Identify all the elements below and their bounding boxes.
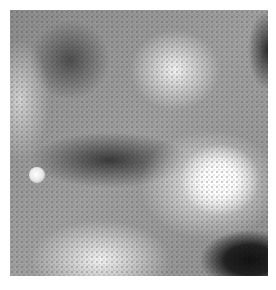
micrograph-image: [10, 10, 268, 276]
bright-particle: [29, 167, 45, 183]
dot-pattern-secondary: [10, 10, 268, 276]
